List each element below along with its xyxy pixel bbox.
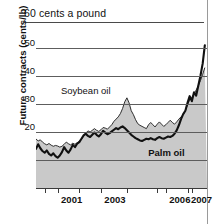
column-rule — [207, 0, 208, 224]
x-tick-mark-2006 — [166, 188, 167, 193]
x-tick-mark-minor-4 — [192, 188, 193, 193]
y-tick-30: 30 — [0, 93, 35, 104]
y-tick-40: 40 — [0, 65, 35, 76]
title-divider — [24, 22, 204, 23]
y-tick-20: 20 — [0, 121, 35, 132]
x-tick-mark-minor-0 — [45, 188, 46, 193]
gridline-50 — [36, 48, 207, 49]
gridline-30 — [36, 104, 207, 105]
x-tick-mark-2003 — [101, 188, 102, 193]
plot-area: 20304050 Soybean oil Palm oil — [36, 34, 207, 188]
series-label-soybean-oil: Soybean oil — [61, 85, 111, 96]
y-tick-50: 50 — [0, 37, 35, 48]
series-label-palm-oil: Palm oil — [148, 147, 184, 158]
x-tick-2001: 2001 — [61, 194, 82, 205]
series-canvas — [36, 34, 207, 188]
x-tick-2003: 2003 — [104, 194, 125, 205]
x-tick-mark-minor-3 — [157, 188, 158, 193]
gridline-20 — [36, 132, 207, 133]
gridline-10 — [36, 160, 207, 161]
x-tick-mark-minor-1 — [79, 188, 80, 193]
chart-figure: 60 cents a pound Future contracts (cents… — [0, 0, 215, 224]
x-tick-mark-minor-2 — [127, 188, 128, 193]
x-axis: 2001200320062007 — [36, 188, 207, 212]
chart-title: 60 cents a pound — [24, 7, 106, 19]
x-tick-mark-2007 — [188, 188, 189, 193]
x-tick-2006: 2006 — [169, 194, 190, 205]
x-tick-mark-2001 — [58, 188, 59, 193]
x-tick-2007: 2007 — [191, 194, 212, 205]
gridline-40 — [36, 76, 207, 77]
